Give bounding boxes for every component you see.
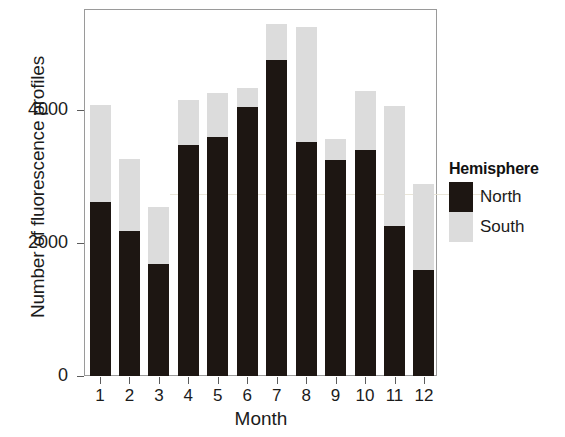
- x-tick-mark: [395, 377, 396, 384]
- legend-title: Hemisphere: [449, 160, 561, 178]
- x-tick-label: 10: [350, 386, 380, 406]
- legend-item-south[interactable]: South: [449, 212, 561, 242]
- bar-segment-south[interactable]: [325, 139, 346, 160]
- legend-swatch-south-icon: [449, 212, 473, 242]
- bar-segment-north[interactable]: [384, 226, 405, 376]
- x-tick-label: 9: [321, 386, 351, 406]
- y-tick-mark: [77, 110, 84, 111]
- bar-segment-north[interactable]: [325, 160, 346, 376]
- figure-canvas: Number of fluorescence profiles 02000400…: [0, 0, 565, 437]
- bar-stack[interactable]: [325, 139, 346, 376]
- y-axis-title: Number of fluorescence profiles: [27, 0, 49, 377]
- bar-segment-north[interactable]: [296, 142, 317, 376]
- legend-swatch-north-icon: [449, 182, 473, 212]
- bar-segment-south[interactable]: [119, 159, 140, 231]
- bar-segment-south[interactable]: [384, 106, 405, 226]
- bar-segment-north[interactable]: [148, 264, 169, 376]
- x-tick-label: 5: [203, 386, 233, 406]
- y-tick-label: 0: [58, 365, 68, 386]
- y-tick-mark: [77, 243, 84, 244]
- y-tick-mark: [77, 376, 84, 377]
- bar-segment-north[interactable]: [90, 202, 111, 376]
- x-tick-label: 6: [232, 386, 262, 406]
- bar-stack[interactable]: [207, 93, 228, 376]
- bar-segment-north[interactable]: [413, 270, 434, 376]
- x-tick-mark: [424, 377, 425, 384]
- x-tick-mark: [188, 377, 189, 384]
- bar-segment-south[interactable]: [237, 88, 258, 107]
- bar-segment-south[interactable]: [266, 24, 287, 59]
- x-tick-mark: [306, 377, 307, 384]
- bar-segment-south[interactable]: [296, 27, 317, 142]
- x-tick-label: 7: [262, 386, 292, 406]
- bar-segment-south[interactable]: [148, 207, 169, 264]
- legend: Hemisphere North South: [449, 160, 561, 242]
- x-tick-mark: [277, 377, 278, 384]
- x-tick-mark: [159, 377, 160, 384]
- bar-stack[interactable]: [296, 27, 317, 376]
- bar-segment-south[interactable]: [178, 100, 199, 145]
- x-tick-label: 4: [173, 386, 203, 406]
- legend-item-north[interactable]: North: [449, 182, 561, 212]
- bar-stack[interactable]: [355, 91, 376, 376]
- y-tick-label: 2000: [28, 232, 68, 253]
- bar-segment-north[interactable]: [119, 231, 140, 376]
- bar-segment-south[interactable]: [413, 184, 434, 270]
- x-tick-label: 11: [380, 386, 410, 406]
- x-tick-mark: [218, 377, 219, 384]
- x-axis-title: Month: [84, 408, 438, 430]
- x-tick-mark: [247, 377, 248, 384]
- bar-segment-south[interactable]: [90, 105, 111, 202]
- bar-stack[interactable]: [266, 24, 287, 376]
- legend-label-north: North: [480, 187, 522, 207]
- x-tick-label: 2: [114, 386, 144, 406]
- x-tick-label: 8: [291, 386, 321, 406]
- x-tick-mark: [129, 377, 130, 384]
- bar-segment-north[interactable]: [266, 60, 287, 376]
- bar-segment-north[interactable]: [237, 107, 258, 376]
- bar-stack[interactable]: [384, 106, 405, 376]
- legend-label-south: South: [480, 217, 524, 237]
- x-tick-label: 1: [85, 386, 115, 406]
- bar-stack[interactable]: [119, 159, 140, 376]
- y-tick-label: 4000: [28, 99, 68, 120]
- x-tick-mark: [100, 377, 101, 384]
- bar-stack[interactable]: [178, 100, 199, 376]
- bar-stack[interactable]: [90, 105, 111, 376]
- bar-segment-south[interactable]: [355, 91, 376, 150]
- x-tick-label: 12: [409, 386, 439, 406]
- bar-segment-north[interactable]: [355, 150, 376, 376]
- bar-stack[interactable]: [237, 88, 258, 376]
- bar-stack[interactable]: [413, 184, 434, 376]
- bar-stack[interactable]: [148, 207, 169, 376]
- x-tick-mark: [336, 377, 337, 384]
- x-tick-mark: [365, 377, 366, 384]
- bar-segment-north[interactable]: [207, 137, 228, 376]
- bar-segment-north[interactable]: [178, 145, 199, 376]
- bar-segment-south[interactable]: [207, 93, 228, 136]
- x-tick-label: 3: [144, 386, 174, 406]
